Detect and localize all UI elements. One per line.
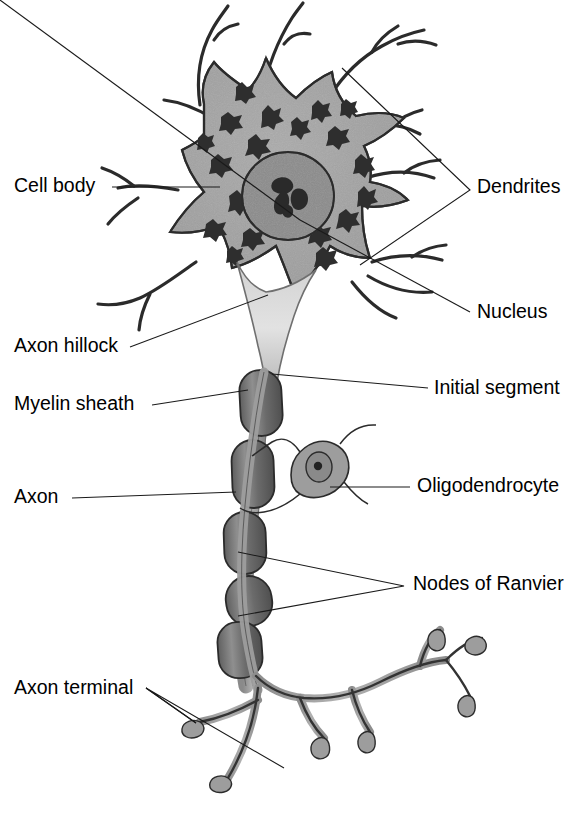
leader-axon-terminal	[146, 688, 284, 768]
axon-hillock	[237, 262, 316, 382]
label-dendrites: Dendrites	[477, 175, 561, 197]
nucleus	[242, 152, 334, 240]
neuron-illustration: Cell body Axon hillock Myelin sheath Axo…	[0, 0, 573, 818]
label-myelin-sheath: Myelin sheath	[14, 392, 134, 414]
neuron-diagram: Cell body Axon hillock Myelin sheath Axo…	[0, 0, 573, 818]
leader-myelin-sheath	[152, 390, 248, 405]
myelin-segment	[223, 573, 276, 629]
leader-axon-terminal-2	[146, 688, 196, 723]
label-oligodendrocyte: Oligodendrocyte	[417, 474, 559, 496]
label-initial-segment: Initial segment	[434, 376, 560, 398]
label-nodes-of-ranvier: Nodes of Ranvier	[413, 572, 564, 594]
leader-axon-hillock	[130, 295, 268, 347]
label-axon-terminal: Axon terminal	[14, 676, 133, 698]
leader-initial-segment	[272, 374, 428, 388]
label-axon: Axon	[14, 485, 58, 507]
label-cell-body: Cell body	[14, 174, 96, 196]
label-axon-hillock: Axon hillock	[14, 334, 118, 356]
label-nucleus: Nucleus	[477, 300, 548, 322]
leader-axon	[72, 492, 236, 498]
